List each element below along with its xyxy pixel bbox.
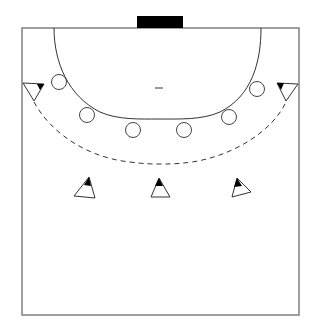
defender-circle-d3 (126, 123, 141, 138)
goal (137, 16, 183, 28)
defender-circle-d1 (52, 75, 67, 90)
defender-circle-d6 (250, 82, 265, 97)
defender-circle-d5 (222, 110, 237, 125)
handball-court-diagram (0, 0, 315, 327)
defender-circle-d4 (177, 123, 192, 138)
defender-circle-d2 (80, 108, 95, 123)
